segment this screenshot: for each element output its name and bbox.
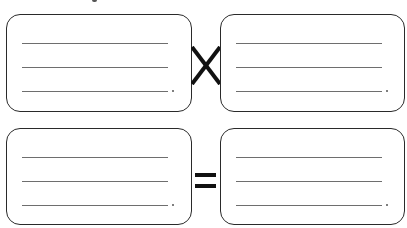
equals-bar-top: [195, 173, 216, 177]
end-mark-dot: [172, 204, 174, 206]
writing-line-1[interactable]: [236, 157, 382, 158]
end-mark-dot: [386, 90, 388, 92]
writing-line-3[interactable]: [236, 205, 382, 206]
end-mark-dot: [386, 204, 388, 206]
writing-line-1[interactable]: [236, 43, 382, 44]
writing-line-2[interactable]: [22, 67, 168, 68]
answer-box-bottom-right: [220, 128, 405, 225]
cut-off-title-fragment: [92, 0, 97, 2]
writing-line-2[interactable]: [22, 181, 168, 182]
writing-line-1[interactable]: [22, 43, 168, 44]
writing-line-1[interactable]: [22, 157, 168, 158]
writing-line-3[interactable]: [22, 91, 168, 92]
equals-bar-bottom: [195, 184, 216, 188]
writing-line-2[interactable]: [236, 181, 382, 182]
writing-line-3[interactable]: [22, 205, 168, 206]
end-mark-dot: [172, 90, 174, 92]
equals-icon: [195, 173, 216, 189]
answer-box-top-left: [6, 14, 192, 112]
writing-line-3[interactable]: [236, 91, 382, 92]
writing-line-2[interactable]: [236, 67, 382, 68]
multiply-icon: [191, 46, 221, 85]
answer-box-bottom-left: [6, 128, 192, 225]
answer-box-top-right: [220, 14, 405, 112]
